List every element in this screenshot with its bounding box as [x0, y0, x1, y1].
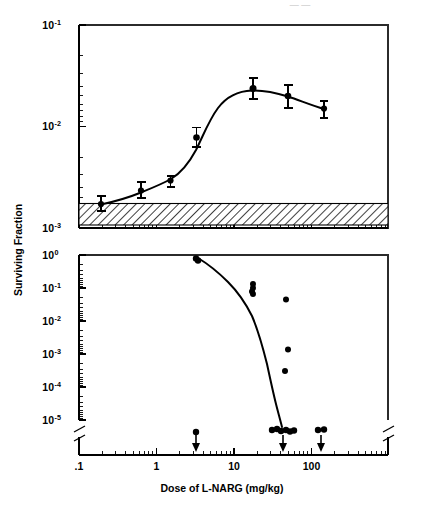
top-ytick-1e-3: 10: [42, 222, 54, 234]
bottom-ytick-1e0-exp: 0: [55, 248, 59, 257]
bottom-ytick-1e-4-exp: -4: [55, 380, 61, 389]
top-ytick-1e-1-exp: -1: [55, 18, 61, 27]
bottom-ytick-1e-2-exp: -2: [55, 314, 61, 323]
xtick-0point1: .1: [75, 460, 84, 472]
bottom-ytick-1e-3-exp: -3: [55, 347, 61, 356]
dose-response-figure: — —: [0, 0, 421, 512]
clipped-header-text: — —: [290, 0, 311, 10]
x-axis-title: Dose of L-NARG (mg/kg): [160, 482, 283, 494]
figure-background: [0, 0, 421, 512]
data-point: [282, 368, 288, 374]
y-axis-title: Surviving Fraction: [12, 204, 24, 296]
xtick-1: 1: [154, 460, 160, 472]
top-ytick-1e-3-exp: -3: [55, 221, 61, 230]
offscale-point: [321, 426, 327, 432]
data-point: [283, 297, 289, 303]
bottom-ytick-1e-2: 10: [42, 315, 54, 327]
figure-container: — —: [0, 0, 421, 512]
offscale-point: [291, 427, 297, 433]
background-hatched-band: [79, 204, 388, 226]
bottom-ytick-1e-5-exp: -5: [55, 413, 61, 422]
data-point: [285, 347, 291, 353]
offscale-point: [315, 427, 321, 433]
bottom-ytick-1e-1-exp: -1: [55, 281, 61, 290]
bottom-ytick-1e-3: 10: [42, 348, 54, 360]
xtick-100: 100: [303, 460, 321, 472]
bottom-ytick-1e-1: 10: [42, 282, 54, 294]
top-ytick-1e-1: 10: [42, 19, 54, 31]
data-point: [250, 291, 256, 297]
data-point: [195, 257, 201, 263]
top-ytick-1e-2-exp: -2: [55, 119, 61, 128]
top-ytick-1e-2: 10: [42, 120, 54, 132]
bottom-ytick-1e-4: 10: [42, 381, 54, 393]
bottom-ytick-1e0: 10: [42, 249, 54, 261]
xtick-10: 10: [228, 460, 240, 472]
offscale-point: [193, 429, 199, 435]
bottom-ytick-1e-5: 10: [42, 414, 54, 426]
